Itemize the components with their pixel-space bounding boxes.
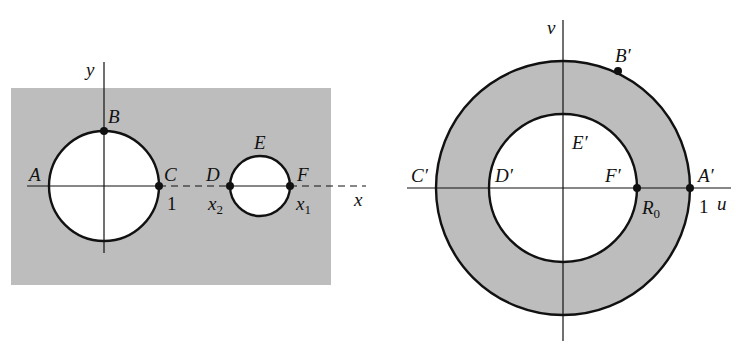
label-B-prime: B′: [615, 45, 632, 66]
y-axis-label: y: [84, 59, 95, 80]
label-C: C: [164, 164, 177, 185]
w-plane-panel: v B′ E′ C′ D′ F′ A′ R0 1 u: [407, 17, 731, 341]
point-D-dot: [226, 182, 234, 190]
conformal-map-diagram: y B A C 1 D x2 E F x1 x v B′ E′ C′ D′ F′…: [0, 0, 741, 348]
x-axis-label: x: [353, 189, 363, 210]
point-B-dot: [100, 127, 108, 135]
label-E: E: [253, 132, 266, 153]
u-axis-label: u: [717, 193, 727, 214]
point-B-prime-dot: [614, 67, 622, 75]
point-A-prime-dot: [686, 184, 694, 192]
label-A: A: [27, 164, 41, 185]
label-E-prime: E′: [571, 132, 589, 153]
point-F-dot: [286, 182, 294, 190]
point-C-dot: [155, 182, 163, 190]
label-F-prime: F′: [604, 165, 622, 186]
label-D: D: [205, 164, 220, 185]
label-B: B: [108, 106, 120, 127]
tick-label-1-u: 1: [699, 196, 709, 217]
label-C-prime: C′: [411, 165, 429, 186]
label-F: F: [296, 164, 309, 185]
tick-label-1: 1: [167, 193, 177, 214]
z-plane-panel: y B A C 1 D x2 E F x1 x: [11, 59, 366, 285]
label-D-prime: D′: [494, 165, 514, 186]
v-axis-label: v: [547, 17, 556, 38]
point-F-prime-dot: [633, 184, 641, 192]
label-A-prime: A′: [696, 165, 715, 186]
